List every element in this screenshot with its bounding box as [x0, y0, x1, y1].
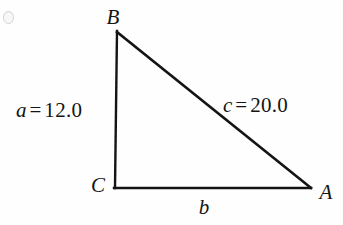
- vertex-label-a: A: [319, 182, 332, 203]
- vertex-label-c: C: [91, 175, 105, 196]
- side-a-value: 12.0: [44, 98, 82, 122]
- side-c-label: c=20.0: [223, 95, 288, 116]
- side-a-line: [115, 31, 117, 188]
- side-c-equals: =: [232, 93, 250, 117]
- side-c-value: 20.0: [250, 93, 288, 117]
- triangle-figure: B C A a=12.0 c=20.0 b: [0, 0, 343, 225]
- side-c-variable: c: [223, 93, 232, 117]
- vertex-label-b: B: [106, 7, 119, 28]
- side-a-equals: =: [27, 98, 45, 122]
- side-b-label: b: [199, 197, 210, 218]
- side-a-variable: a: [16, 98, 27, 122]
- side-a-label: a=12.0: [16, 100, 82, 121]
